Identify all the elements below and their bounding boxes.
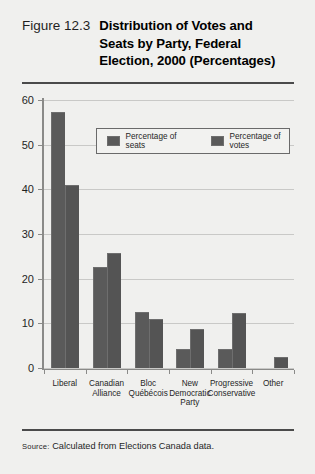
legend-item-seats: Percentage of seats	[107, 132, 185, 150]
y-axis-tick-label: 60	[0, 95, 34, 106]
category-label-line: Other	[243, 379, 303, 389]
category-label-line: Party	[160, 398, 220, 408]
y-axis-tick-mark	[38, 323, 43, 324]
y-axis-tick-label: 50	[0, 140, 34, 151]
category-label-line: Conservative	[202, 389, 262, 399]
gridline	[44, 279, 294, 280]
gridline	[44, 234, 294, 235]
source-divider	[22, 429, 294, 431]
y-axis-tick-mark	[38, 100, 43, 101]
title-line-2: Seats by Party, Federal	[99, 35, 275, 53]
figure-number: Figure 12.3	[22, 17, 90, 35]
gridline	[44, 368, 294, 369]
y-axis-tick-label: 0	[0, 363, 34, 374]
gridline	[44, 189, 294, 190]
y-axis-tick-label: 20	[0, 274, 34, 285]
legend-swatch-seats-icon	[107, 136, 120, 146]
source-note: Source: Calculated from Elections Canada…	[22, 441, 214, 451]
figure-header: Figure 12.3 Distribution of Votes and Se…	[22, 17, 294, 70]
x-axis-tick-mark	[169, 370, 170, 374]
bar-seats	[218, 349, 232, 368]
y-axis-tick-mark	[38, 145, 43, 146]
source-text: Calculated from Elections Canada data.	[50, 441, 214, 451]
bar-votes	[107, 253, 121, 368]
x-axis-tick-mark	[86, 370, 87, 374]
y-axis-tick-mark	[38, 189, 43, 190]
gridline	[44, 100, 294, 101]
bar-seats	[135, 312, 149, 368]
bar-chart: 0102030405060 LiberalCanadianAllianceBlo…	[0, 92, 315, 387]
y-axis-tick-mark	[38, 234, 43, 235]
legend-label-votes: Percentage of votes	[230, 132, 289, 150]
bar-seats	[93, 267, 107, 368]
y-axis-tick-label: 10	[0, 318, 34, 329]
x-axis-tick-mark	[252, 370, 253, 374]
bar-votes	[65, 185, 79, 368]
page-title: Distribution of Votes and Seats by Party…	[99, 17, 275, 70]
legend-label-seats: Percentage of seats	[126, 132, 185, 150]
bar-votes	[274, 357, 288, 368]
x-axis-tick-mark	[211, 370, 212, 374]
bar-votes	[232, 313, 246, 368]
bar-seats	[51, 112, 65, 368]
title-line-3: Election, 2000 (Percentages)	[99, 52, 275, 70]
y-axis-tick-label: 30	[0, 229, 34, 240]
title-line-1: Distribution of Votes and	[99, 17, 275, 35]
y-axis-tick-label: 40	[0, 184, 34, 195]
y-axis-tick-mark	[38, 279, 43, 280]
bar-votes	[149, 319, 163, 368]
x-axis-tick-mark	[127, 370, 128, 374]
bar-seats	[176, 349, 190, 368]
gridline	[44, 323, 294, 324]
header-divider	[22, 82, 294, 84]
chart-legend: Percentage of seats Percentage of votes	[96, 128, 290, 154]
source-label: Source:	[22, 442, 50, 451]
figure-panel: Figure 12.3 Distribution of Votes and Se…	[0, 0, 315, 474]
x-axis-category-label: Other	[243, 379, 303, 389]
legend-item-votes: Percentage of votes	[211, 132, 289, 150]
y-axis-tick-mark	[38, 368, 43, 369]
x-axis-tick-mark	[44, 370, 45, 374]
x-axis-tick-mark	[294, 370, 295, 374]
legend-swatch-votes-icon	[211, 136, 224, 146]
bar-votes	[190, 329, 204, 368]
